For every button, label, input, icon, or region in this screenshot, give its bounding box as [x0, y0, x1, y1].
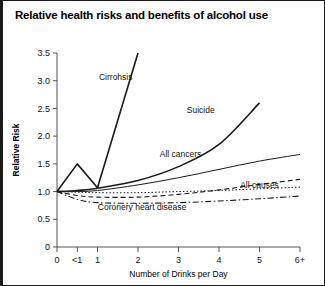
y-axis-tick-label: 0	[45, 242, 50, 252]
x-axis-tick-label: 2	[135, 255, 140, 265]
y-axis-tick-label: 3.0	[37, 76, 50, 86]
chart-figure: Relative health risks and benefits of al…	[0, 0, 325, 286]
y-axis-tick-label: 2.0	[37, 131, 50, 141]
y-axis-tick-label: 1.0	[37, 187, 50, 197]
y-axis-tick-label: 3.5	[37, 48, 50, 58]
series-label-1: Suicide	[187, 105, 215, 115]
series-label-5: Coronery heart disease	[98, 202, 187, 212]
series-label-3: All causes	[240, 180, 279, 190]
x-axis-tick-label: <1	[72, 255, 82, 265]
y-axis-tick-label: 1.5	[37, 159, 50, 169]
y-axis-title: Relative Risk	[11, 123, 21, 176]
x-axis-tick-label: 3	[176, 255, 181, 265]
x-axis-tick-label: 6+	[295, 255, 305, 265]
y-axis-tick-label: 2.5	[37, 104, 50, 114]
x-axis-title: Number of Drinks per Day	[129, 269, 228, 279]
series-label-0: Cirrohsis	[99, 72, 133, 82]
x-axis-tick-label: 5	[257, 255, 262, 265]
x-axis-tick-label: 1	[95, 255, 100, 265]
x-axis-tick-label: 0	[54, 255, 59, 265]
y-axis-tick-label: 0.5	[37, 214, 50, 224]
x-axis-tick-label: 4	[216, 255, 221, 265]
series-label-2: All cancers	[160, 149, 202, 159]
line-chart-plot: 00.51.01.52.02.53.03.5Relative Risk0<112…	[3, 1, 325, 286]
series-line-1	[57, 103, 260, 192]
